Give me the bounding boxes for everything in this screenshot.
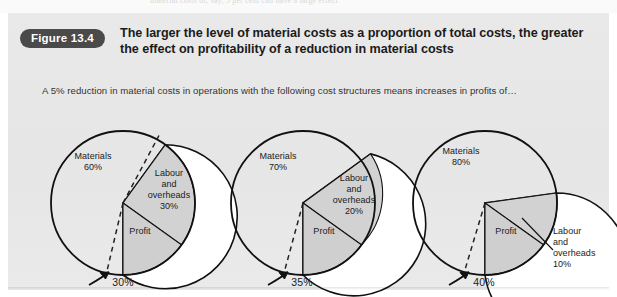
pie-chart-3 <box>8 13 609 290</box>
pie-3-materials-label: Materials 80% <box>428 146 494 168</box>
panel-shadow <box>8 287 609 290</box>
figure-root: material costs of, say, 5 per cent can h… <box>0 0 617 297</box>
pie-3-dashed-boundary <box>464 203 485 273</box>
figure-panel: Figure 13.4 The larger the level of mate… <box>8 13 609 290</box>
pie-chart-group: Materials 60% Labour and overheads 30% P… <box>8 13 609 290</box>
page-bleed-strip: material costs of, say, 5 per cent can h… <box>0 0 617 13</box>
pie-3-labour-label: Labour and overheads 10% <box>553 226 611 270</box>
page-bleed-text: material costs of, say, 5 per cent can h… <box>150 0 338 5</box>
pie-3-profit-label: Profit <box>486 226 526 237</box>
